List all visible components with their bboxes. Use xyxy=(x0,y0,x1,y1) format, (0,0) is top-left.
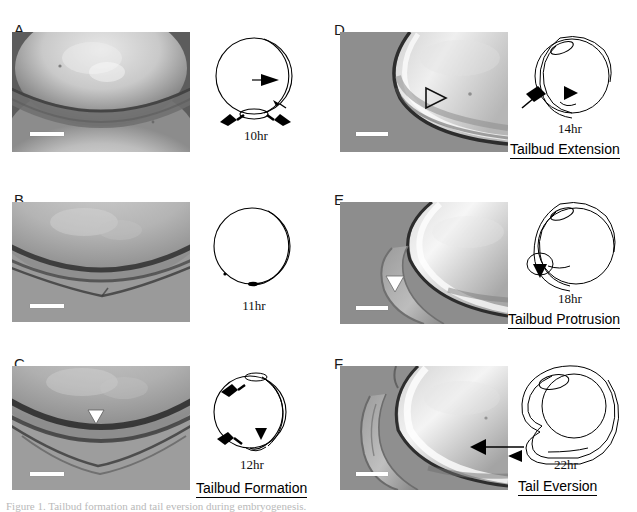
panel-f: F xyxy=(320,340,637,511)
schematic-e xyxy=(514,192,629,304)
scale-bar-d xyxy=(356,132,388,136)
micrograph-d xyxy=(340,32,508,152)
schematic-a xyxy=(206,30,306,130)
scale-bar-e xyxy=(356,306,388,310)
micrograph-c xyxy=(12,366,190,490)
timestamp-b: 11hr xyxy=(214,299,294,312)
stage-label-e: Tailbud Protrusion xyxy=(508,311,620,329)
panel-a: A xyxy=(0,0,320,170)
scale-bar-f xyxy=(356,472,388,476)
scale-bar-a xyxy=(30,132,64,136)
panel-c: C xyxy=(0,340,320,511)
panel-d: D xyxy=(320,0,637,170)
timestamp-f: 22hr xyxy=(526,458,606,471)
timestamp-d: 14hr xyxy=(530,122,610,135)
panel-e: E xyxy=(320,170,637,340)
panel-b: B xyxy=(0,170,320,340)
schematic-b xyxy=(206,200,306,300)
scale-bar-b xyxy=(30,304,64,308)
schematic-c xyxy=(200,360,310,470)
timestamp-c: 12hr xyxy=(212,458,292,471)
micrograph-b xyxy=(12,202,190,322)
micrograph-f xyxy=(340,366,508,490)
stage-label-f: Tail Eversion xyxy=(518,478,597,496)
figure-caption: Figure 1. Tailbud formation and tail eve… xyxy=(6,500,631,512)
micrograph-e xyxy=(340,202,508,324)
schematic-d xyxy=(516,24,626,134)
stage-label-c: Tailbud Formation xyxy=(196,480,307,498)
timestamp-e: 18hr xyxy=(530,292,610,305)
scale-bar-c xyxy=(30,472,64,476)
timestamp-a: 10hr xyxy=(216,129,296,142)
stage-label-d: Tailbud Extension xyxy=(510,141,620,159)
micrograph-a xyxy=(12,32,190,152)
eversion-arrow-f xyxy=(468,436,530,458)
